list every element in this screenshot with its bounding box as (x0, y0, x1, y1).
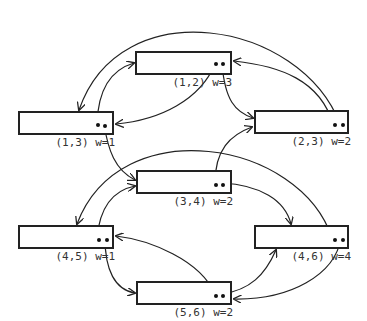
node-label: (1,3) w=1 (56, 136, 116, 149)
node-4-6: (4,6) w=4 (254, 225, 349, 249)
pointer-dot-icon (97, 238, 101, 242)
diagram-canvas: (1,2) w=3 (1,3) w=1 (2,3) w=2 (3,4) w=2 … (0, 0, 367, 321)
node-5-6: (5,6) w=2 (136, 281, 232, 305)
pointer-dot-icon (341, 238, 345, 242)
node-label: (3,4) w=2 (174, 195, 234, 208)
pointer-dot-icon (341, 123, 345, 127)
node-2-3: (2,3) w=2 (254, 110, 349, 134)
pointer-dot-icon (221, 183, 225, 187)
pointer-dot-icon (96, 123, 100, 127)
pointer-dot-icon (214, 62, 218, 66)
pointer-dot-icon (103, 124, 107, 128)
pointer-dot-icon (214, 294, 218, 298)
node-1-2: (1,2) w=3 (135, 51, 232, 75)
node-3-4: (3,4) w=2 (136, 170, 232, 194)
node-label: (4,5) w=1 (56, 250, 116, 263)
pointer-dot-icon (214, 183, 218, 187)
node-4-5: (4,5) w=1 (18, 225, 114, 249)
node-1-3: (1,3) w=1 (18, 111, 114, 135)
pointer-dot-icon (333, 123, 337, 127)
node-label: (2,3) w=2 (292, 135, 352, 148)
pointer-dot-icon (333, 238, 337, 242)
pointer-dot-icon (221, 62, 225, 66)
node-label: (5,6) w=2 (174, 306, 234, 319)
pointer-dot-icon (221, 294, 225, 298)
pointer-dot-icon (105, 238, 109, 242)
node-label: (4,6) w=4 (292, 250, 352, 263)
node-label: (1,2) w=3 (173, 76, 233, 89)
